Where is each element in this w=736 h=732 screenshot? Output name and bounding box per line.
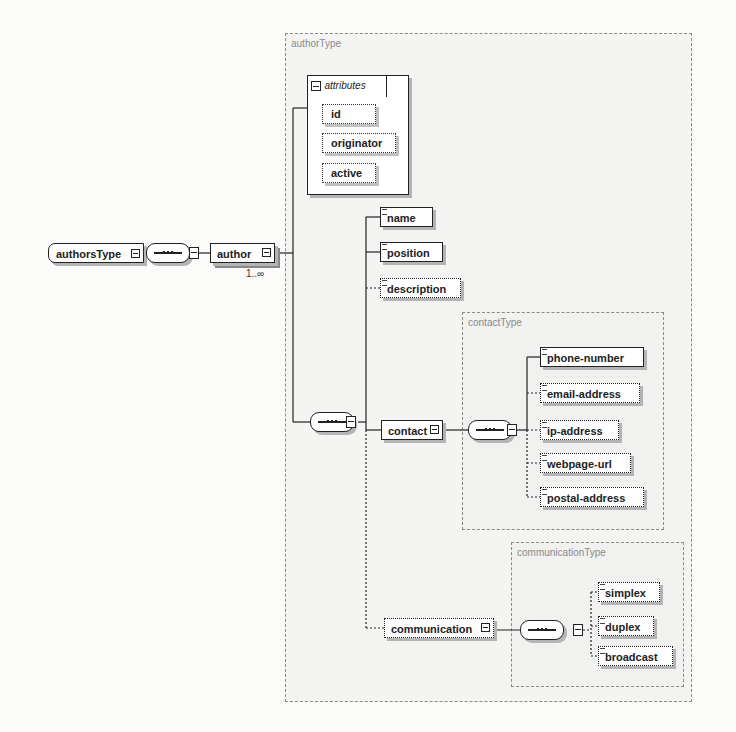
element-label: duplex — [605, 621, 640, 633]
collapse-icon[interactable] — [573, 624, 583, 636]
authors-type-node[interactable]: authorsType — [48, 243, 144, 263]
collapse-icon[interactable] — [189, 247, 199, 259]
author-cardinality: 1..∞ — [246, 268, 264, 279]
attribute-label: id — [331, 108, 341, 120]
simple-content-icon — [382, 209, 387, 215]
attribute-active[interactable]: active — [322, 163, 376, 183]
element-label: description — [387, 283, 446, 295]
authors-type-label: authorsType — [56, 248, 121, 260]
author-node[interactable]: author — [210, 243, 275, 263]
schema-diagram: authorType contactType communicationType — [0, 0, 736, 732]
collapse-icon[interactable] — [131, 249, 140, 258]
element-label: email-address — [547, 388, 621, 400]
element-simplex[interactable]: simplex — [598, 582, 660, 602]
simple-content-icon — [542, 455, 547, 461]
element-label: webpage-url — [547, 458, 612, 470]
element-description[interactable]: description — [380, 278, 461, 298]
element-position[interactable]: position — [380, 242, 443, 262]
simple-content-icon — [542, 489, 547, 495]
element-phone-number[interactable]: phone-number — [540, 347, 644, 367]
simple-content-icon — [600, 584, 605, 590]
attributes-panel: attributes id originator active — [307, 75, 409, 195]
collapse-icon[interactable] — [311, 81, 321, 91]
sequence-compositor[interactable] — [468, 420, 512, 440]
element-duplex[interactable]: duplex — [598, 616, 654, 636]
element-label: contact — [388, 425, 427, 437]
element-label: communication — [391, 623, 472, 635]
element-label: postal-address — [547, 492, 625, 504]
sequence-dots-icon — [536, 628, 548, 631]
collapse-icon[interactable] — [430, 425, 439, 434]
element-label: name — [387, 212, 416, 224]
attribute-originator[interactable]: originator — [322, 133, 396, 153]
collapse-icon[interactable] — [262, 248, 271, 257]
sequence-dots-icon — [484, 428, 496, 431]
element-email-address[interactable]: email-address — [540, 383, 640, 403]
simple-content-icon — [542, 349, 547, 355]
simple-content-icon — [382, 280, 387, 286]
simple-content-icon — [600, 648, 605, 654]
element-communication[interactable]: communication — [384, 618, 494, 638]
sequence-dots-icon — [162, 251, 174, 254]
element-postal-address[interactable]: postal-address — [540, 487, 644, 507]
simple-content-icon — [542, 422, 547, 428]
collapse-icon[interactable] — [346, 416, 356, 428]
element-webpage-url[interactable]: webpage-url — [540, 453, 631, 473]
attributes-header-label: attributes — [325, 80, 366, 91]
attribute-label: active — [331, 167, 362, 179]
attributes-header[interactable]: attributes — [307, 75, 387, 97]
sequence-compositor[interactable] — [146, 243, 190, 263]
element-label: position — [387, 247, 430, 259]
attribute-label: originator — [331, 137, 382, 149]
element-label: phone-number — [547, 352, 624, 364]
element-label: ip-address — [547, 425, 603, 437]
collapse-icon[interactable] — [481, 623, 490, 632]
element-label: simplex — [605, 587, 646, 599]
author-label: author — [217, 248, 251, 260]
simple-content-icon — [542, 385, 547, 391]
element-contact[interactable]: contact — [381, 420, 443, 440]
element-label: broadcast — [605, 651, 658, 663]
element-ip-address[interactable]: ip-address — [540, 420, 619, 440]
sequence-dots-icon — [326, 420, 338, 423]
sequence-compositor[interactable] — [520, 620, 564, 640]
element-broadcast[interactable]: broadcast — [598, 646, 673, 666]
attribute-id[interactable]: id — [322, 104, 376, 124]
simple-content-icon — [600, 618, 605, 624]
simple-content-icon — [382, 244, 387, 250]
collapse-icon[interactable] — [507, 424, 517, 436]
element-name[interactable]: name — [380, 207, 433, 227]
